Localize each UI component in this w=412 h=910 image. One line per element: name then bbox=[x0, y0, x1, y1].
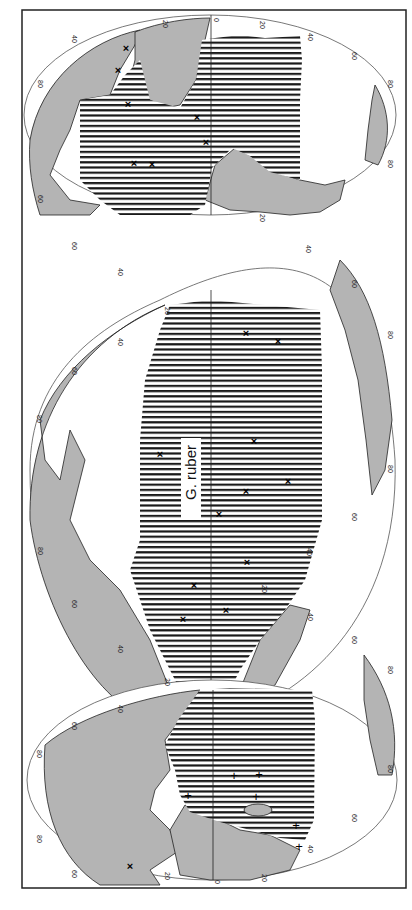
tick-label: 80 bbox=[387, 765, 394, 773]
x-marker: × bbox=[149, 158, 155, 170]
species-label: G. ruber bbox=[182, 445, 199, 500]
tick-label: 60 bbox=[351, 513, 358, 521]
x-marker: × bbox=[251, 435, 257, 447]
tick-label: 60 bbox=[351, 52, 358, 60]
tick-label: 20 bbox=[164, 872, 171, 880]
tick-label: 80 bbox=[36, 750, 43, 758]
plus-marker: + bbox=[230, 768, 238, 783]
x-marker: × bbox=[157, 448, 163, 460]
x-marker: × bbox=[191, 579, 197, 591]
tick-label: 60 bbox=[351, 636, 358, 644]
indian-lobe: + + + + + + × bbox=[27, 655, 397, 885]
tick-label: 0 bbox=[213, 18, 220, 22]
x-marker: × bbox=[131, 157, 137, 169]
tick-label: 40 bbox=[307, 845, 314, 853]
tick-label: 20 bbox=[164, 307, 171, 315]
tick-label: 60 bbox=[71, 600, 78, 608]
pacific-lobe: G. ruber × × × × × × × × × × × bbox=[30, 260, 395, 721]
tick-label: 40 bbox=[117, 645, 124, 653]
tick-label: 80 bbox=[36, 415, 43, 423]
x-marker: × bbox=[125, 98, 131, 110]
tick-label: 80 bbox=[37, 80, 44, 88]
tick-label: 80 bbox=[36, 835, 43, 843]
x-marker: × bbox=[244, 556, 250, 568]
tick-label: 40 bbox=[117, 705, 124, 713]
tick-label: 60 bbox=[71, 242, 78, 250]
x-marker: × bbox=[243, 327, 249, 339]
x-marker: × bbox=[123, 42, 129, 54]
tick-label: 80 bbox=[387, 666, 394, 674]
tick-label: 80 bbox=[387, 160, 394, 168]
tick-label: 60 bbox=[351, 814, 358, 822]
tick-label: 80 bbox=[387, 465, 394, 473]
tick-label: 0 bbox=[214, 880, 221, 884]
x-marker: × bbox=[180, 613, 186, 625]
tick-label: 60 bbox=[71, 722, 78, 730]
tick-label: 20 bbox=[164, 678, 171, 686]
x-marker: × bbox=[203, 136, 209, 148]
x-marker: × bbox=[285, 475, 291, 487]
tick-label: 60 bbox=[71, 367, 78, 375]
x-marker: × bbox=[223, 604, 229, 616]
tick-label: 40 bbox=[117, 338, 124, 346]
x-marker: × bbox=[216, 508, 222, 520]
plus-marker: + bbox=[255, 767, 263, 782]
tick-label: 40 bbox=[117, 268, 124, 276]
tick-label: 40 bbox=[71, 35, 78, 43]
tick-label: 40 bbox=[307, 33, 314, 41]
tick-label: 80 bbox=[37, 547, 44, 555]
x-marker: × bbox=[115, 64, 121, 76]
plus-marker: + bbox=[295, 839, 303, 854]
tick-label: 40 bbox=[307, 613, 314, 621]
plus-marker: + bbox=[184, 788, 192, 803]
tick-label: 20 bbox=[259, 21, 266, 29]
tick-label: 60 bbox=[351, 280, 358, 288]
tick-label: 80 bbox=[387, 80, 394, 88]
tick-label: 40 bbox=[306, 548, 313, 556]
tick-label: 60 bbox=[37, 195, 44, 203]
land-madagascar bbox=[244, 804, 272, 816]
plus-marker: + bbox=[292, 818, 300, 833]
tick-label: 40 bbox=[305, 245, 312, 253]
tick-label: 60 bbox=[71, 870, 78, 878]
x-marker: × bbox=[194, 111, 200, 123]
x-marker: × bbox=[275, 335, 281, 347]
tick-label: 80 bbox=[387, 331, 394, 339]
atlantic-lobe: × × × × × × × bbox=[24, 15, 396, 215]
x-marker: × bbox=[127, 860, 133, 872]
tick-label: 20 bbox=[162, 20, 169, 28]
distribution-map: × × × × × × × G. ruber × bbox=[0, 0, 412, 910]
tick-label: 20 bbox=[259, 214, 266, 222]
plus-marker: + bbox=[252, 789, 260, 804]
x-marker: × bbox=[243, 485, 249, 497]
tick-label: 20 bbox=[261, 874, 268, 882]
tick-label: 20 bbox=[261, 585, 268, 593]
